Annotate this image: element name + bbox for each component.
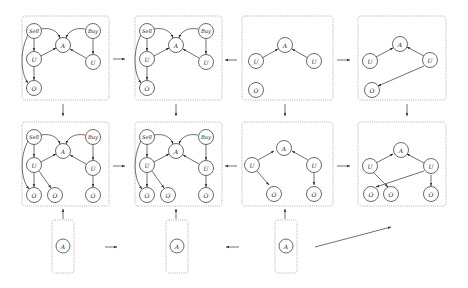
node-action: A <box>279 239 293 253</box>
node-utility: U <box>27 52 42 67</box>
node-sell: Sell <box>140 130 155 145</box>
node-utility: U <box>249 54 264 69</box>
svg-text:O: O <box>312 191 317 198</box>
node-outcome: O <box>140 81 155 96</box>
node-buy: Buy <box>199 130 214 145</box>
node-buy: Buy <box>199 24 214 39</box>
svg-text:Sell: Sell <box>142 134 152 140</box>
node-outcome: O <box>365 83 380 98</box>
node-sell: Sell <box>27 24 42 39</box>
node-action: A <box>56 144 71 159</box>
node-outcome: O <box>267 187 282 202</box>
panel-r2c4: A U U O O O <box>358 122 446 206</box>
panel-r1c3: A U U O <box>242 16 333 100</box>
node-action: A <box>56 239 70 253</box>
node-buy: Buy <box>86 24 101 39</box>
panel-r3c2: A <box>166 220 188 273</box>
svg-text:A: A <box>60 148 66 155</box>
panel-r3c1: A <box>52 220 74 273</box>
node-outcome: O <box>140 188 155 203</box>
svg-text:O: O <box>145 192 150 199</box>
svg-text:O: O <box>145 85 150 92</box>
svg-text:O: O <box>369 191 374 198</box>
node-action: A <box>170 239 184 253</box>
node-utility: U <box>140 158 155 173</box>
svg-text:O: O <box>370 87 375 94</box>
node-outcome: O <box>27 188 42 203</box>
node-outcome: O <box>48 188 63 203</box>
node-action: A <box>56 38 71 53</box>
svg-text:A: A <box>397 41 403 48</box>
node-action: A <box>278 38 293 53</box>
svg-text:O: O <box>166 192 171 199</box>
node-utility: U <box>86 161 101 176</box>
svg-text:A: A <box>173 42 179 49</box>
node-utility: U <box>424 159 439 174</box>
svg-text:A: A <box>283 243 289 250</box>
svg-text:Buy: Buy <box>200 134 211 141</box>
svg-text:O: O <box>53 192 58 199</box>
panel-r1c4: A U U O <box>358 16 446 100</box>
node-utility: U <box>363 159 378 174</box>
node-utility: U <box>199 55 214 70</box>
svg-text:Sell: Sell <box>29 134 39 140</box>
svg-text:Buy: Buy <box>87 28 98 35</box>
node-utility: U <box>307 158 322 173</box>
node-sell: Sell <box>27 130 42 145</box>
svg-text:A: A <box>173 148 179 155</box>
node-buy: Buy <box>86 130 101 145</box>
svg-text:O: O <box>91 192 96 199</box>
arrow-diagonal <box>315 227 391 247</box>
svg-text:A: A <box>174 243 180 250</box>
panel-r1c1: Sell Buy A U U O <box>22 16 109 100</box>
node-outcome: O <box>424 187 439 202</box>
svg-text:O: O <box>254 87 259 94</box>
svg-text:Buy: Buy <box>200 28 211 35</box>
node-outcome: O <box>199 188 214 203</box>
diagram-canvas: Sell Buy A U U O Sell Buy A U U O A U U … <box>0 0 468 288</box>
svg-text:A: A <box>398 147 404 154</box>
svg-text:Buy: Buy <box>87 134 98 141</box>
svg-text:O: O <box>272 191 277 198</box>
svg-text:A: A <box>282 42 288 49</box>
node-outcome: O <box>249 83 264 98</box>
node-action: A <box>169 144 184 159</box>
node-outcome: O <box>27 81 42 96</box>
node-action: A <box>169 38 184 53</box>
node-outcome: O <box>384 187 399 202</box>
node-outcome: O <box>161 188 176 203</box>
node-utility: U <box>27 158 42 173</box>
node-utility: U <box>140 52 155 67</box>
svg-text:O: O <box>32 192 37 199</box>
node-outcome: O <box>307 187 322 202</box>
svg-text:O: O <box>32 85 37 92</box>
node-outcome: O <box>364 187 379 202</box>
node-utility: U <box>423 53 438 68</box>
svg-text:O: O <box>204 192 209 199</box>
svg-text:A: A <box>60 243 66 250</box>
svg-text:O: O <box>389 191 394 198</box>
node-utility: U <box>199 161 214 176</box>
node-action: A <box>277 141 292 156</box>
node-outcome: O <box>86 188 101 203</box>
node-sell: Sell <box>140 24 155 39</box>
panel-r2c1: Sell Buy A U U O O O <box>22 122 109 206</box>
transition-arrows <box>63 59 407 247</box>
svg-text:A: A <box>281 145 287 152</box>
node-utility: U <box>245 158 260 173</box>
svg-text:O: O <box>429 191 434 198</box>
node-utility: U <box>86 55 101 70</box>
node-utility: U <box>363 54 378 69</box>
panel-r2c2: Sell Buy A U U O O O <box>135 122 222 206</box>
svg-text:A: A <box>60 42 66 49</box>
node-utility: U <box>307 54 322 69</box>
svg-text:Sell: Sell <box>142 28 152 34</box>
panel-r3c3: A <box>275 220 297 273</box>
panel-r1c2: Sell Buy A U U O <box>135 16 222 100</box>
svg-text:Sell: Sell <box>29 28 39 34</box>
node-action: A <box>393 37 408 52</box>
panel-r2c3: A U U O O <box>242 122 333 206</box>
node-action: A <box>394 143 409 158</box>
